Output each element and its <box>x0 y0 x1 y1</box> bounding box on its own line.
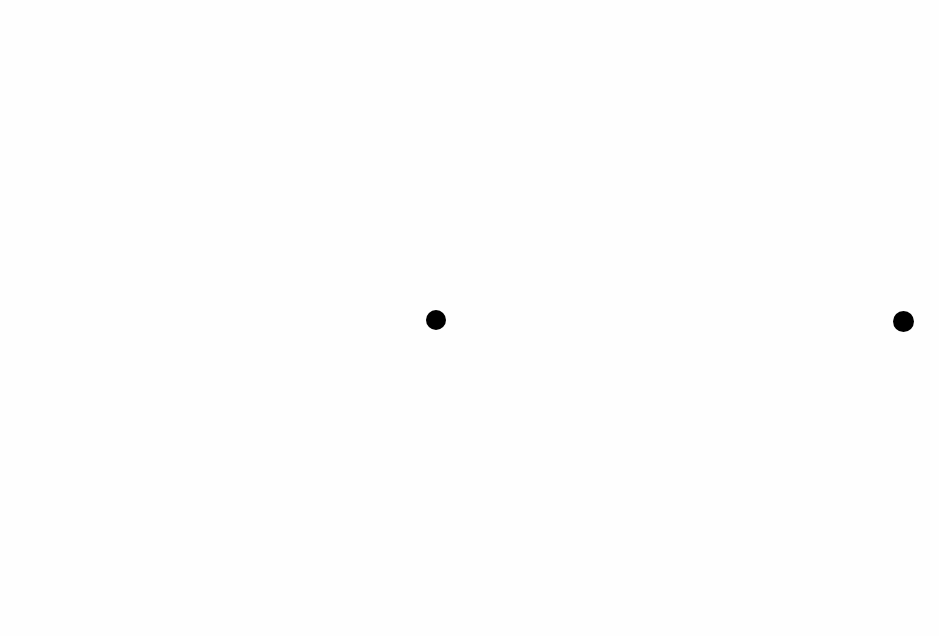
blank-canvas <box>0 0 939 636</box>
dot-right <box>893 311 914 332</box>
dot-left <box>426 310 446 330</box>
